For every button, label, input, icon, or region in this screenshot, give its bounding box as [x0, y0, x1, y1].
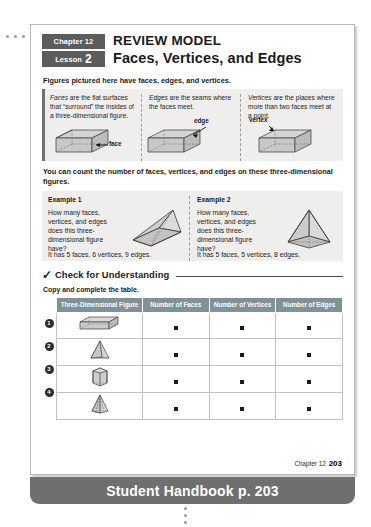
- cell-figure: [57, 392, 143, 419]
- left-decorative-dots: [6, 35, 25, 38]
- answer-square-icon: [240, 326, 244, 330]
- example-1-title: Example 1: [48, 196, 189, 203]
- answer-square-icon: [174, 407, 178, 411]
- cell-vertices[interactable]: [209, 392, 276, 419]
- lesson-chip-label: Lesson: [55, 55, 82, 64]
- dot-icon: [6, 35, 9, 38]
- answer-table-block: 1 2 3 4 Three-Dimensional Figure Number …: [42, 297, 343, 420]
- dot-icon: [184, 507, 187, 510]
- cell-edges[interactable]: [276, 365, 343, 392]
- lesson-chip-number: 2: [85, 53, 92, 65]
- example-1: Example 1 How many faces, vertices, and …: [48, 196, 189, 261]
- cell-faces[interactable]: [143, 312, 210, 338]
- cell-vertices[interactable]: [209, 338, 276, 365]
- count-instruction: You can count the number of faces, verti…: [43, 167, 343, 187]
- cell-figure: [57, 338, 143, 365]
- lesson-chip: Lesson 2: [42, 51, 105, 67]
- row-number-column: 1 2 3 4: [42, 297, 56, 420]
- row-number-badge: 1: [45, 319, 54, 328]
- cell-edges[interactable]: [276, 392, 343, 419]
- dot-icon: [184, 514, 187, 517]
- example-2-title: Example 2: [197, 196, 338, 203]
- example-1-answer: It has 5 faces, 6 vertices, 9 edges.: [48, 251, 151, 258]
- example-2-figure: [284, 208, 334, 254]
- edges-figure: edge: [144, 126, 210, 160]
- cell-vertices[interactable]: [209, 365, 276, 392]
- card-header: Chapter 12 Lesson 2 REVIEW MODEL Faces, …: [42, 34, 343, 67]
- definition-faces-term: Faces: [50, 94, 68, 101]
- review-model-title: REVIEW MODEL: [113, 34, 302, 48]
- example-1-question: How many faces, vertices, and edges does…: [48, 208, 122, 253]
- answer-square-icon: [307, 407, 311, 411]
- definition-edges-text: Edges are the seams where the faces meet…: [149, 94, 236, 112]
- check-heading: Check for Understanding: [55, 269, 169, 280]
- cell-vertices[interactable]: [209, 312, 276, 338]
- table-header-row: Three-Dimensional Figure Number of Faces…: [57, 297, 343, 312]
- rectangular-prism-icon: [255, 126, 321, 156]
- definition-vertices-term: Vertices: [248, 94, 272, 101]
- definitions-panel: Faces are the flat surfaces that “surrou…: [42, 89, 343, 161]
- footer-page-number: 203: [329, 459, 342, 468]
- answer-square-icon: [174, 380, 178, 384]
- row-number-cell: 4: [42, 381, 56, 404]
- cell-figure: [57, 365, 143, 392]
- table-row: [57, 365, 343, 392]
- example-2-answer: It has 5 faces, 5 vertices, 8 edges.: [197, 251, 300, 258]
- definition-edges: Edges are the seams where the faces meet…: [141, 94, 240, 161]
- hexagonal-prism-icon: [87, 367, 113, 387]
- th-edges: Number of Edges: [276, 297, 343, 312]
- answer-square-icon: [174, 326, 178, 330]
- answer-square-icon: [240, 407, 244, 411]
- table-row: [57, 338, 343, 365]
- table-head: Three-Dimensional Figure Number of Faces…: [57, 297, 343, 312]
- answer-square-icon: [240, 353, 244, 357]
- example-2-question: How many faces, vertices, and edges does…: [197, 208, 271, 253]
- footer-chapter: Chapter 12: [294, 460, 325, 467]
- worksheet-page: Chapter 12 Lesson 2 REVIEW MODEL Faces, …: [0, 0, 371, 527]
- example-2: Example 2 How many faces, vertices, and …: [189, 196, 338, 261]
- dot-icon: [14, 35, 17, 38]
- cell-figure: [57, 312, 143, 338]
- student-handbook-banner: Student Handbook p. 203: [30, 477, 355, 504]
- review-model-card: Chapter 12 Lesson 2 REVIEW MODEL Faces, …: [30, 24, 355, 475]
- cell-edges[interactable]: [276, 338, 343, 365]
- row-number-badge: 4: [45, 388, 54, 397]
- face-label: face: [109, 140, 122, 147]
- answer-square-icon: [307, 326, 311, 330]
- cell-edges[interactable]: [276, 312, 343, 338]
- faces-figure: face: [52, 126, 118, 160]
- rectangular-prism-icon: [76, 314, 124, 333]
- example-1-figure: [129, 208, 185, 252]
- th-faces: Number of Faces: [143, 297, 210, 312]
- hexagonal-pyramid-icon: [87, 394, 113, 414]
- edge-label: edge: [194, 117, 209, 124]
- definition-faces: Faces are the flat surfaces that “surrou…: [50, 94, 141, 161]
- bottom-decorative-dots: [0, 507, 371, 524]
- rectangular-prism-icon: [144, 126, 210, 156]
- cell-faces[interactable]: [143, 338, 210, 365]
- page-footer: Chapter 12203: [294, 459, 342, 468]
- triangular-pyramid-icon: [89, 340, 111, 360]
- row-number-badge: 2: [45, 342, 54, 351]
- answer-square-icon: [307, 380, 311, 384]
- table-body: [57, 312, 343, 419]
- title-block: REVIEW MODEL Faces, Vertices, and Edges: [113, 34, 302, 67]
- definition-faces-text: Faces are the flat surfaces that “surrou…: [50, 94, 137, 120]
- vertices-figure: vertex: [255, 126, 321, 160]
- answer-square-icon: [174, 353, 178, 357]
- page-title: Faces, Vertices, and Edges: [113, 50, 302, 67]
- cell-faces[interactable]: [143, 392, 210, 419]
- cell-faces[interactable]: [143, 365, 210, 392]
- definition-edges-term: Edges: [149, 94, 168, 101]
- th-vertices: Number of Vertices: [209, 297, 276, 312]
- examples-panel: Example 1 How many faces, vertices, and …: [42, 191, 343, 261]
- heading-rule: [176, 276, 343, 277]
- row-number-cell: 2: [42, 335, 56, 358]
- intro-text: Figures pictured here have faces, edges,…: [43, 76, 343, 85]
- dot-icon: [22, 35, 25, 38]
- chapter-lesson-chips: Chapter 12 Lesson 2: [42, 34, 105, 67]
- check-for-understanding-header: ✓ Check for Understanding: [42, 269, 343, 281]
- row-number-badge: 3: [45, 365, 54, 374]
- square-pyramid-icon: [284, 208, 334, 250]
- row-number-cell: 1: [42, 312, 56, 335]
